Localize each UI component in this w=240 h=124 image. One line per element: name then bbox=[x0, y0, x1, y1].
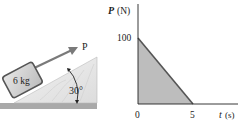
y-axis-label-var: P bbox=[108, 5, 115, 16]
x-tick-0: 0 bbox=[135, 110, 140, 120]
figure-canvas: 30° P 6 kg P (N) 100 0 5 t (s) bbox=[0, 0, 240, 124]
mass-label: 6 kg bbox=[13, 76, 30, 86]
y-tick-100: 100 bbox=[117, 33, 132, 43]
y-axis-label-unit: (N) bbox=[117, 6, 130, 17]
x-axis-label-var: t bbox=[219, 109, 222, 120]
x-tick-5: 5 bbox=[190, 110, 195, 120]
x-axis-label-unit: (s) bbox=[225, 110, 235, 120]
force-label: P bbox=[82, 41, 88, 52]
force-time-graph bbox=[138, 4, 238, 104]
force-arrow bbox=[30, 47, 78, 70]
ground bbox=[0, 103, 97, 109]
angle-label: 30° bbox=[69, 85, 83, 96]
